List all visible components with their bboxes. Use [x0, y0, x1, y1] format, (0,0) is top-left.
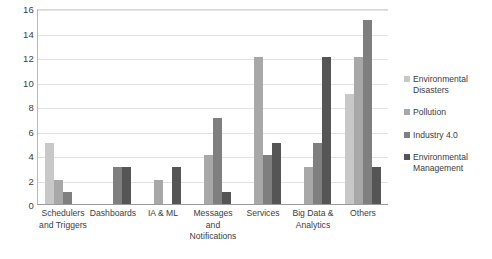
plot-area: [37, 9, 388, 205]
bar: [213, 118, 222, 204]
bar: [322, 57, 331, 204]
legend-label: Environmental Management: [413, 152, 490, 174]
bar: [204, 155, 213, 204]
y-axis-tick: 10: [23, 77, 34, 88]
x-axis-category-label: Services: [238, 208, 288, 243]
legend-swatch-icon: [404, 76, 410, 82]
plot-wrapper: 0246810121416 Schedulers and TriggersDas…: [0, 0, 492, 259]
bar: [345, 94, 354, 204]
bar: [222, 192, 231, 204]
x-axis-category-label: IA & ML: [138, 208, 188, 243]
bar: [63, 192, 72, 204]
y-axis-tick-labels: 0246810121416: [8, 9, 34, 205]
legend-label: Pollution: [413, 107, 490, 118]
bar: [54, 180, 63, 205]
bar: [272, 143, 281, 204]
x-axis-category-label: Dashboards: [88, 208, 138, 243]
bar: [304, 167, 313, 204]
x-axis-category-labels: Schedulers and TriggersDashboardsIA & ML…: [38, 208, 388, 243]
bar: [172, 167, 181, 204]
bar-group: [38, 10, 88, 204]
y-axis-tick: 4: [29, 151, 34, 162]
y-axis-tick: 14: [23, 28, 34, 39]
legend-item[interactable]: Environmental Management: [404, 152, 490, 174]
bar: [313, 143, 322, 204]
y-axis-tick: 6: [29, 126, 34, 137]
bar-chart: 0246810121416 Schedulers and TriggersDas…: [0, 0, 492, 259]
bar-group: [88, 10, 138, 204]
bar-group: [338, 10, 388, 204]
x-axis-category-label: Schedulers and Triggers: [38, 208, 88, 243]
y-axis-tick: 8: [29, 102, 34, 113]
bar-group: [288, 10, 338, 204]
chart-legend: Environmental DisastersPollutionIndustry…: [404, 74, 490, 185]
bar: [254, 57, 263, 204]
y-axis-tick: 0: [29, 200, 34, 211]
legend-swatch-icon: [404, 132, 410, 138]
bar: [363, 20, 372, 204]
bar: [263, 155, 272, 204]
legend-swatch-icon: [404, 109, 410, 115]
y-axis-tick: 16: [23, 4, 34, 15]
legend-label: Environmental Disasters: [413, 74, 490, 96]
legend-item[interactable]: Pollution: [404, 107, 490, 118]
bar: [354, 57, 363, 204]
legend-item[interactable]: Environmental Disasters: [404, 74, 490, 96]
x-axis-category-label: Others: [338, 208, 388, 243]
bar-groups: [38, 10, 388, 204]
bar: [45, 143, 54, 204]
legend-item[interactable]: Industry 4.0: [404, 130, 490, 141]
legend-swatch-icon: [404, 154, 410, 160]
bar: [372, 167, 381, 204]
bar: [154, 180, 163, 205]
bar-group: [138, 10, 188, 204]
bar: [122, 167, 131, 204]
bar-group: [238, 10, 288, 204]
legend-label: Industry 4.0: [413, 130, 490, 141]
x-axis-category-label: Messages and Notifications: [188, 208, 238, 243]
bar: [113, 167, 122, 204]
y-axis-tick: 2: [29, 175, 34, 186]
bar-group: [188, 10, 238, 204]
x-axis-category-label: Big Data & Analytics: [288, 208, 338, 243]
y-axis-tick: 12: [23, 53, 34, 64]
